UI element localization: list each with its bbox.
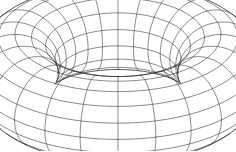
torus-grid-path [15, 65, 62, 120]
torus-wireframe-svg [0, 0, 236, 151]
torus-grid-path [235, 106, 236, 129]
torus-figure [0, 0, 236, 151]
torus-grid-path [174, 65, 221, 120]
torus-grid-path [150, 137, 156, 151]
torus-meridian-lines-group [0, 0, 236, 151]
torus-grid-path [178, 34, 236, 73]
torus-grid-path [234, 15, 236, 45]
torus-grid-path [0, 57, 55, 107]
torus-grid-path [181, 131, 191, 152]
torus-grid-path [140, 75, 156, 137]
torus-grid-path [80, 75, 96, 137]
torus-grid-path [80, 137, 86, 151]
torus-grid-path [181, 57, 236, 107]
torus-grid-path [0, 106, 1, 129]
torus-grid-path [0, 34, 58, 73]
torus-grid-path [45, 131, 55, 152]
